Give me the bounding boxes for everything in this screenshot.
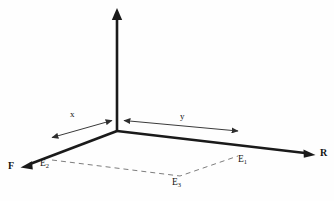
point-label-e1: E1: [238, 155, 247, 165]
point-label-e2-base: E: [40, 158, 46, 168]
point-label-e2-subscript: 2: [46, 162, 49, 169]
right-axis-arrowhead-icon: [304, 150, 316, 158]
front-axis-arrowhead-icon: [21, 161, 33, 169]
axis-label-front: F: [8, 161, 14, 171]
base-parallelogram-dashed-path: [52, 156, 238, 176]
point-label-e3: E3: [172, 178, 181, 188]
right-axis: [117, 131, 305, 153]
y-dimension-arrow: [124, 121, 238, 132]
vertical-axis-arrowhead-icon: [112, 8, 122, 20]
dimension-label-y: y: [180, 112, 185, 121]
point-label-e2: E2: [40, 159, 49, 169]
dimension-label-x: x: [70, 110, 75, 119]
point-label-e1-subscript: 1: [244, 158, 247, 165]
axis-label-right: R: [320, 148, 327, 158]
diagram-canvas: [0, 0, 334, 201]
point-label-e1-base: E: [238, 154, 244, 164]
coordinate-axes-diagram: F R x y E1 E2 E3: [0, 0, 334, 201]
point-label-e3-base: E: [172, 177, 178, 187]
point-label-e3-subscript: 3: [178, 181, 181, 188]
